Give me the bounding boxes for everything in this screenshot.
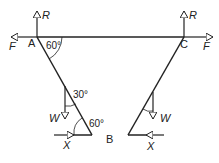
label-angle-a: 60° <box>46 40 61 51</box>
force-diagram: R R F F A C 60° 30° W 60° B X W X <box>0 0 219 163</box>
label-w-left: W <box>49 112 61 124</box>
label-a: A <box>28 37 36 49</box>
label-f-right: F <box>203 40 211 52</box>
label-angle-b: 60° <box>89 118 104 129</box>
label-x-right: X <box>146 140 155 152</box>
angle-arc-w-right <box>143 109 153 111</box>
label-r-a: R <box>42 9 50 21</box>
label-r-c: R <box>189 9 197 21</box>
label-b: B <box>106 133 113 145</box>
angle-arc-b <box>74 118 82 135</box>
label-c: C <box>180 38 188 50</box>
label-f-left: F <box>9 40 17 52</box>
ladder-c <box>128 37 184 135</box>
label-angle-w: 30° <box>73 89 88 100</box>
label-x-left: X <box>62 139 71 151</box>
label-w-right: W <box>160 112 172 124</box>
